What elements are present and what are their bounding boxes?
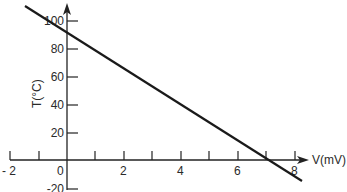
y-tick-label: 80 (51, 42, 65, 56)
x-axis-title: V(mV) (312, 153, 346, 167)
y-tick-label: 20 (51, 126, 65, 140)
y-axis-title: T(°C) (30, 79, 44, 108)
x-tick-label: 4 (177, 164, 184, 178)
x-ticks (10, 151, 295, 160)
x-tick-label: 6 (234, 164, 241, 178)
y-ticks (67, 21, 78, 189)
x-tick-label: 2 (120, 164, 127, 178)
chart: - 2 0 2 4 6 8 100 80 60 40 20 -20 V(mV) … (0, 0, 347, 192)
x-tick-label: - 2 (2, 164, 16, 178)
y-tick-label: 60 (51, 70, 65, 84)
y-tick-label: -20 (47, 182, 65, 192)
x-tick-label: 0 (57, 164, 64, 178)
y-tick-label: 40 (51, 98, 65, 112)
